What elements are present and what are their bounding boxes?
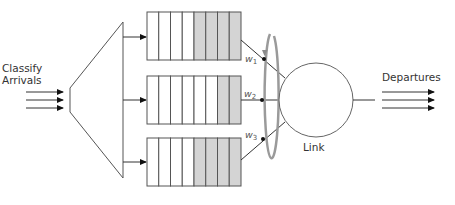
scheduler-ring: [265, 34, 279, 158]
queue-cell-filled: [206, 138, 218, 186]
weight-label-2: w2: [244, 88, 256, 101]
queue-cell-empty: [182, 12, 194, 60]
queues: [147, 12, 241, 186]
weight-label-1: w1: [245, 53, 257, 66]
classify-arrivals-label: Classify Arrivals: [2, 62, 42, 86]
queue-cell-empty: [159, 12, 171, 60]
queue-cell-filled: [229, 12, 241, 60]
classifier-shape: [70, 22, 123, 178]
weight-dot-1: [262, 57, 266, 61]
queue-cell-filled: [229, 138, 241, 186]
queue-cell-empty: [147, 76, 159, 124]
queue-cell-empty: [159, 138, 171, 186]
weight-label-3: w3: [245, 129, 257, 142]
queue-cell-empty: [147, 138, 159, 186]
weight-dot-3: [261, 137, 265, 141]
classify-label-line1: Classify: [2, 62, 42, 74]
link-label: Link: [303, 141, 325, 153]
weight-dot-2: [260, 98, 264, 102]
queue-1: [147, 12, 241, 60]
wfq-diagram: Classify Arrivals w1 w2 w3 L: [0, 0, 455, 205]
queue-cell-empty: [182, 138, 194, 186]
queue-cell-filled: [218, 12, 230, 60]
queue-2: [147, 76, 241, 124]
queue-cell-filled: [218, 76, 230, 124]
queue-cell-empty: [171, 12, 183, 60]
weight-labels: w1 w2 w3: [244, 53, 257, 142]
queue-cell-filled: [194, 138, 206, 186]
link-circle: [279, 63, 353, 137]
queue-cell-empty: [182, 76, 194, 124]
queue-cell-filled: [194, 12, 206, 60]
queue-cell-filled: [229, 76, 241, 124]
arrival-arrows: [26, 92, 63, 108]
queue-3: [147, 138, 241, 186]
departure-arrows: [382, 92, 434, 108]
queue-cell-empty: [171, 76, 183, 124]
queue-cell-empty: [171, 138, 183, 186]
queue-cell-empty: [206, 76, 218, 124]
queue-feed-arrows: [123, 37, 146, 162]
queue-cell-empty: [194, 76, 206, 124]
queue-cell-filled: [206, 12, 218, 60]
classify-label-line2: Arrivals: [2, 74, 42, 86]
queue-cell-empty: [147, 12, 159, 60]
queue-cell-filled: [218, 138, 230, 186]
departures-label: Departures: [382, 71, 441, 83]
queue-cell-empty: [159, 76, 171, 124]
